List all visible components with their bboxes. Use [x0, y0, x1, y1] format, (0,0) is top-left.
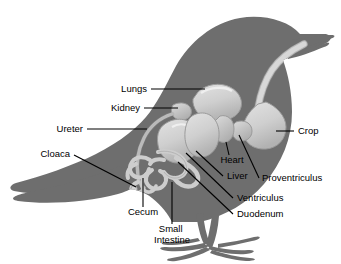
- label-liver: Liver: [227, 170, 248, 181]
- label-ureter: Ureter: [57, 123, 83, 134]
- cloaca-opening: [131, 186, 137, 192]
- label-lungs: Lungs: [121, 83, 147, 94]
- label-cecum: Cecum: [128, 206, 158, 217]
- bird-anatomy-diagram: Lungs Kidney Ureter Cloaca Cecum Small I…: [0, 0, 341, 264]
- diagram-canvas: Lungs Kidney Ureter Cloaca Cecum Small I…: [0, 0, 341, 264]
- label-duodenum: Duodenum: [237, 208, 284, 219]
- label-ventriculus: Ventriculus: [237, 192, 284, 203]
- label-heart: Heart: [220, 154, 244, 165]
- kidney-shape: [171, 103, 191, 120]
- label-proventriculus: Proventriculus: [262, 172, 322, 183]
- label-small-intestine-line1: Small: [159, 223, 183, 234]
- label-crop: Crop: [298, 125, 319, 136]
- label-small-intestine-line2: Intestine: [154, 234, 190, 245]
- proventriculus-shape: [232, 121, 252, 141]
- label-small-intestine: Small Intestine: [154, 223, 190, 245]
- label-cloaca: Cloaca: [40, 148, 70, 159]
- label-kidney: Kidney: [111, 102, 140, 113]
- ventriculus-shape: [185, 113, 219, 157]
